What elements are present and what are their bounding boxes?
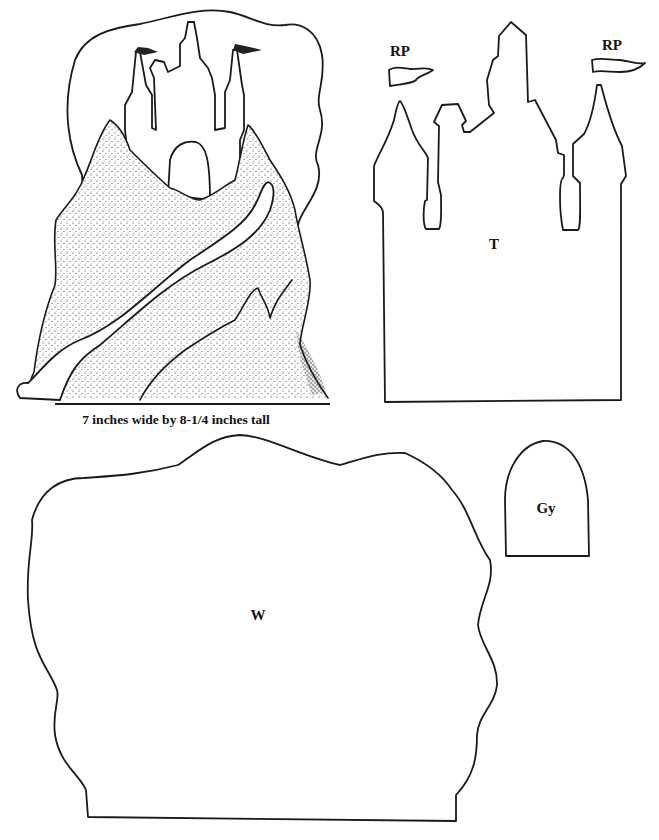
- piece-w-outline: [28, 435, 497, 821]
- dimension-caption: 7 inches wide by 8-1/4 inches tall: [82, 412, 270, 428]
- label-t: T: [489, 236, 499, 253]
- castle-illustration: [17, 10, 330, 404]
- label-rp-left: RP: [390, 43, 410, 60]
- piece-gy-outline: [505, 441, 589, 556]
- piece-rp-right-outline: [592, 59, 645, 72]
- label-gy: Gy: [536, 500, 555, 517]
- piece-rp-left-outline: [389, 68, 433, 86]
- label-w: W: [251, 607, 266, 624]
- label-rp-right: RP: [602, 37, 622, 54]
